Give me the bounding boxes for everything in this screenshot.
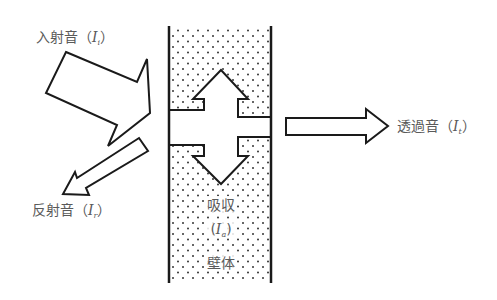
incident-label-text: 入射音 (36, 29, 78, 45)
reflected-label: 反射音（Ir） (32, 202, 111, 220)
wall-label: 壁体 (205, 254, 237, 271)
incident-label: 入射音（Ii） (36, 29, 114, 47)
wall (169, 26, 271, 283)
transmitted-label: 透過音（It） (397, 118, 476, 136)
svg-text:入射音（Ii）: 入射音（Ii） (36, 29, 114, 47)
incident-arrow (46, 52, 150, 146)
transmitted-label-text: 透過音 (397, 118, 439, 134)
sound-transmission-diagram: 入射音（Ii） 反射音（Ir） 透過音（It） 吸収 (Ia) 壁体 (0, 0, 497, 300)
reflected-arrow (63, 138, 148, 195)
reflected-label-text: 反射音 (32, 202, 74, 218)
svg-text:反射音（Ir）: 反射音（Ir） (32, 202, 111, 220)
absorption-label-text: 吸収 (207, 197, 235, 213)
transmitted-arrow (286, 109, 388, 143)
svg-text:(Ia): (Ia) (210, 221, 231, 239)
wall-label-text: 壁体 (207, 255, 235, 271)
svg-text:透過音（It）: 透過音（It） (397, 118, 476, 136)
